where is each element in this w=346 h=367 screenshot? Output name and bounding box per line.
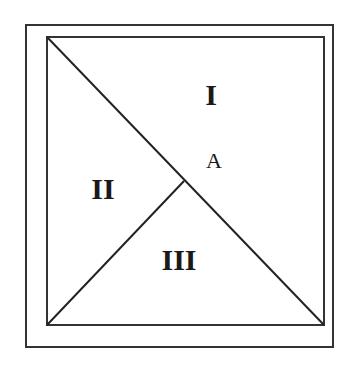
region-label-i: I: [205, 78, 217, 111]
square-diagram: I A II III: [0, 0, 346, 367]
region-label-ii: II: [91, 172, 114, 205]
region-label-iii: III: [161, 243, 196, 276]
point-label-a: A: [206, 148, 222, 173]
